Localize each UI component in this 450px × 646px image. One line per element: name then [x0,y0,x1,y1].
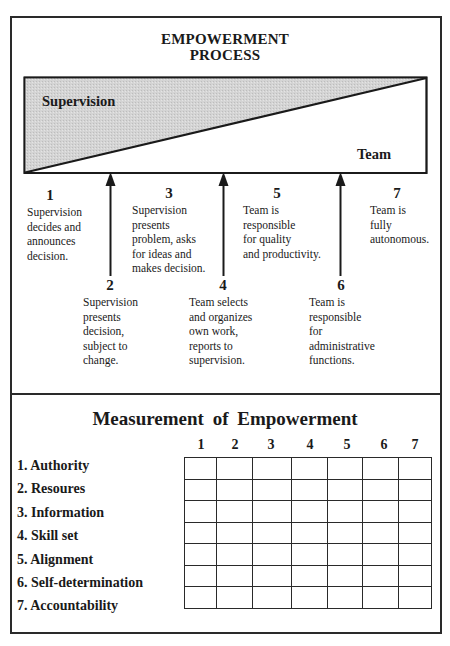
column-header-7: 7 [408,437,422,453]
grid-cell[interactable] [328,479,363,501]
grid-cell[interactable] [217,501,253,523]
grid-cell[interactable] [217,565,253,587]
measurement-grid [184,457,432,609]
step-1-description: Supervision decides and announces decisi… [27,205,82,263]
step-7-number: 7 [387,185,407,201]
grid-cell[interactable] [185,458,217,480]
grid-row-self-determination [185,565,432,587]
measurement-title: Measurement of Empowerment [0,408,450,430]
grid-cell[interactable] [328,544,363,566]
step-2-description: Supervision presents decision, subject t… [83,295,138,368]
grid-row-accountability [185,587,432,609]
row-label-alignment: 5. Alignment [17,552,93,568]
step-7-description: Team is fully autonomous. [370,203,429,247]
grid-cell[interactable] [185,544,217,566]
grid-cell[interactable] [253,501,292,523]
step-6-description: Team is responsible for administrative f… [309,295,375,368]
grid-cell[interactable] [399,501,432,523]
grid-cell[interactable] [217,479,253,501]
row-label-resources: 2. Resoures [17,481,85,497]
column-header-6: 6 [377,437,391,453]
step-1-number: 1 [40,187,60,203]
grid-cell[interactable] [185,479,217,501]
grid-cell[interactable] [399,522,432,544]
row-label-authority: 1. Authority [17,458,89,474]
grid-row-resources [185,479,432,501]
step-4-description: Team selects and organizes own work, rep… [189,295,252,368]
step-4-number: 4 [213,277,233,293]
grid-cell[interactable] [363,522,399,544]
grid-cell[interactable] [253,587,292,609]
grid-row-skill-set [185,522,432,544]
column-header-1: 1 [194,437,208,453]
grid-cell[interactable] [399,565,432,587]
grid-cell[interactable] [399,544,432,566]
grid-cell[interactable] [399,587,432,609]
grid-cell[interactable] [328,522,363,544]
grid-cell[interactable] [185,565,217,587]
grid-cell[interactable] [292,458,328,480]
arrow-6 [336,172,346,276]
column-header-5: 5 [340,437,354,453]
grid-row-alignment [185,544,432,566]
arrow-2 [106,172,116,276]
grid-cell[interactable] [253,458,292,480]
grid-cell[interactable] [328,458,363,480]
step-5-description: Team is responsible for quality and prod… [243,203,321,261]
grid-cell[interactable] [253,565,292,587]
grid-cell[interactable] [217,458,253,480]
grid-cell[interactable] [363,587,399,609]
step-2-number: 2 [100,277,120,293]
grid-cell[interactable] [292,522,328,544]
grid-cell[interactable] [185,501,217,523]
grid-cell[interactable] [217,522,253,544]
grid-cell[interactable] [363,458,399,480]
step-3-number: 3 [159,185,179,201]
supervision-label: Supervision [42,93,115,110]
column-header-4: 4 [303,437,317,453]
grid-cell[interactable] [292,587,328,609]
column-header-3: 3 [264,437,278,453]
team-label: Team [357,146,391,163]
row-label-skill-set: 4. Skill set [17,528,78,544]
grid-cell[interactable] [363,501,399,523]
column-header-2: 2 [228,437,242,453]
grid-cell[interactable] [399,458,432,480]
grid-cell[interactable] [399,479,432,501]
row-label-self-determination: 6. Self-determination [17,575,143,591]
grid-cell[interactable] [292,501,328,523]
grid-row-authority [185,458,432,480]
grid-cell[interactable] [328,565,363,587]
grid-cell[interactable] [217,587,253,609]
grid-cell[interactable] [185,587,217,609]
grid-row-information [185,501,432,523]
grid-cell[interactable] [217,544,253,566]
grid-cell[interactable] [253,479,292,501]
grid-cell[interactable] [292,544,328,566]
grid-cell[interactable] [292,565,328,587]
grid-cell[interactable] [363,544,399,566]
grid-cell[interactable] [253,522,292,544]
arrow-4 [219,172,229,276]
step-5-number: 5 [267,185,287,201]
step-3-description: Supervision presents problem, asks for i… [132,203,205,276]
grid-cell[interactable] [292,479,328,501]
grid-cell[interactable] [328,587,363,609]
grid-cell[interactable] [363,565,399,587]
row-label-accountability: 7. Accountability [17,598,118,614]
step-6-number: 6 [331,277,351,293]
grid-cell[interactable] [328,501,363,523]
grid-cell[interactable] [185,522,217,544]
grid-cell[interactable] [253,544,292,566]
row-label-information: 3. Information [17,505,104,521]
grid-cell[interactable] [363,479,399,501]
